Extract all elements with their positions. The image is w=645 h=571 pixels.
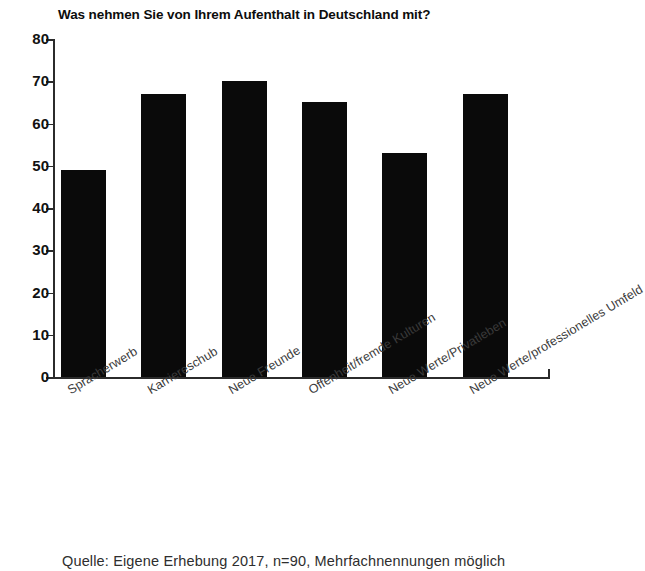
y-axis-tick-label: 50 bbox=[32, 157, 49, 175]
bar bbox=[302, 102, 347, 377]
y-axis-tick-label: 60 bbox=[32, 115, 49, 133]
y-axis-tick-label: 70 bbox=[32, 72, 49, 90]
bar bbox=[141, 94, 186, 377]
y-axis-tick-label: 80 bbox=[32, 30, 49, 48]
y-axis-line bbox=[53, 39, 55, 377]
y-axis-tick-label: 0 bbox=[41, 368, 49, 386]
y-axis-tick-label: 30 bbox=[32, 241, 49, 259]
y-axis-tick-label: 10 bbox=[32, 326, 49, 344]
bar bbox=[61, 170, 106, 377]
source-caption: Quelle: Eigene Erhebung 2017, n=90, Mehr… bbox=[62, 553, 505, 569]
y-axis-tick-label: 20 bbox=[32, 284, 49, 302]
plot-area: 01020304050607080 bbox=[53, 39, 550, 377]
bar bbox=[222, 81, 267, 377]
x-axis-right-cap bbox=[548, 369, 550, 378]
y-axis-tick-label: 40 bbox=[32, 199, 49, 217]
chart-title: Was nehmen Sie von Ihrem Aufenthalt in D… bbox=[58, 7, 430, 22]
